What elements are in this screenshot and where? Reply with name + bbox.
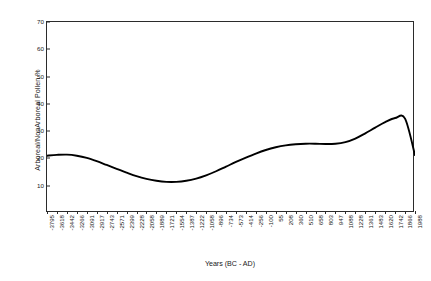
- x-tick-mark: [415, 211, 416, 214]
- y-tick-label: 20: [37, 155, 44, 161]
- y-tick-label: 70: [37, 19, 44, 25]
- x-tick-mark: [127, 211, 128, 214]
- pollen-percentage-chart: Arboreal/NonArboreal Pollen % 1020304050…: [0, 0, 431, 281]
- x-tick-label: -1889: [159, 215, 166, 231]
- x-tick-mark: [375, 211, 376, 214]
- plot-area: 10203040506070-3795-3618-3442-3266-3091-…: [46, 21, 414, 212]
- x-tick-mark: [236, 211, 237, 214]
- x-tick-label: -2228: [139, 215, 146, 231]
- x-tick-mark: [97, 211, 98, 214]
- x-tick-label: -1721: [169, 215, 176, 231]
- x-tick-mark: [395, 211, 396, 214]
- x-tick-mark: [67, 211, 68, 214]
- x-tick-mark: [316, 211, 317, 214]
- x-tick-mark: [365, 211, 366, 214]
- x-tick-mark: [256, 211, 257, 214]
- x-tick-label: -1554: [179, 215, 186, 231]
- x-tick-mark: [216, 211, 217, 214]
- x-tick-mark: [276, 211, 277, 214]
- x-tick-label: 1988: [417, 215, 424, 229]
- y-tick-mark: [47, 158, 50, 159]
- x-tick-label: -896: [218, 215, 225, 227]
- x-tick-mark: [137, 211, 138, 214]
- x-tick-label: 1866: [407, 215, 414, 229]
- x-tick-mark: [405, 211, 406, 214]
- x-tick-mark: [226, 211, 227, 214]
- x-tick-label: -1058: [209, 215, 216, 231]
- x-tick-label: -1387: [189, 215, 196, 231]
- x-tick-label: 947: [338, 215, 345, 225]
- x-tick-label: 1483: [378, 215, 385, 229]
- x-tick-label: -414: [248, 215, 255, 227]
- y-tick-label: 50: [37, 73, 44, 79]
- x-tick-mark: [345, 211, 346, 214]
- pollen-curve: [47, 22, 415, 213]
- x-tick-mark: [286, 211, 287, 214]
- x-tick-label: 803: [328, 215, 335, 225]
- x-tick-label: -3442: [69, 215, 76, 231]
- y-tick-mark: [47, 131, 50, 132]
- x-tick-mark: [77, 211, 78, 214]
- x-tick-mark: [325, 211, 326, 214]
- x-tick-mark: [47, 211, 48, 214]
- x-tick-label: 1620: [388, 215, 395, 229]
- x-tick-mark: [186, 211, 187, 214]
- x-tick-label: 1742: [398, 215, 405, 229]
- x-tick-mark: [156, 211, 157, 214]
- x-tick-label: -2917: [99, 215, 106, 231]
- x-tick-mark: [266, 211, 267, 214]
- x-tick-label: -1222: [199, 215, 206, 231]
- x-tick-label: -3266: [79, 215, 86, 231]
- x-tick-mark: [385, 211, 386, 214]
- y-tick-mark: [47, 103, 50, 104]
- x-tick-label: -100: [268, 215, 275, 227]
- x-tick-mark: [166, 211, 167, 214]
- x-tick-mark: [335, 211, 336, 214]
- x-tick-mark: [296, 211, 297, 214]
- x-tick-label: 360: [298, 215, 305, 225]
- x-tick-mark: [196, 211, 197, 214]
- y-tick-mark: [47, 22, 50, 23]
- y-tick-label: 40: [37, 101, 44, 107]
- x-tick-label: 510: [308, 215, 315, 225]
- x-axis-title: Years (BC - AD): [46, 260, 414, 268]
- y-tick-label: 60: [37, 46, 44, 52]
- x-tick-label: 208: [288, 215, 295, 225]
- x-tick-label: -3795: [49, 215, 56, 231]
- y-tick-label: 30: [37, 128, 44, 134]
- x-tick-mark: [306, 211, 307, 214]
- x-tick-mark: [107, 211, 108, 214]
- x-tick-label: 1361: [368, 215, 375, 229]
- x-tick-label: 658: [318, 215, 325, 225]
- x-tick-label: 1228: [358, 215, 365, 229]
- x-tick-mark: [176, 211, 177, 214]
- x-tick-label: -3091: [89, 215, 96, 231]
- x-tick-mark: [117, 211, 118, 214]
- x-tick-label: -734: [228, 215, 235, 227]
- y-tick-label: 10: [37, 183, 44, 189]
- y-tick-mark: [47, 76, 50, 77]
- x-tick-label: -256: [258, 215, 265, 227]
- x-tick-mark: [87, 211, 88, 214]
- x-tick-label: -2571: [119, 215, 126, 231]
- x-tick-label: -2399: [129, 215, 136, 231]
- x-tick-label: -2743: [109, 215, 116, 231]
- x-tick-label: -2058: [149, 215, 156, 231]
- x-tick-mark: [146, 211, 147, 214]
- x-tick-mark: [206, 211, 207, 214]
- x-tick-label: -573: [238, 215, 245, 227]
- x-tick-label: 55: [278, 215, 285, 222]
- x-tick-mark: [246, 211, 247, 214]
- y-tick-mark: [47, 185, 50, 186]
- x-tick-label: -3618: [59, 215, 66, 231]
- x-tick-label: 1088: [348, 215, 355, 229]
- y-tick-mark: [47, 49, 50, 50]
- pollen-curve-path: [47, 116, 415, 182]
- x-tick-mark: [355, 211, 356, 214]
- x-tick-mark: [57, 211, 58, 214]
